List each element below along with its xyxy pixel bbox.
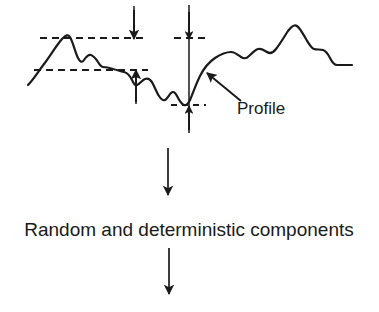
surface-profile-flow-diagram: Profile Random and deterministic compone…	[0, 0, 379, 312]
stage-one-label: Random and deterministic components	[24, 219, 354, 240]
figure-canvas: Profile Random and deterministic compone…	[0, 0, 379, 312]
profile-callout-leader	[207, 73, 241, 101]
profile-label: Profile	[237, 99, 285, 118]
